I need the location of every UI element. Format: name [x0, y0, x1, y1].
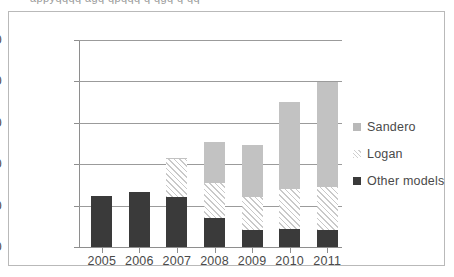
bar-segment[interactable] — [317, 230, 338, 247]
y-tick-label: 100 000 — [0, 157, 2, 171]
x-tick-label: 2009 — [238, 254, 267, 268]
bar-segment[interactable] — [279, 102, 300, 189]
x-tick-label: 2010 — [275, 254, 304, 268]
bar-segment[interactable] — [242, 230, 263, 247]
legend-item-logan: Logan — [353, 147, 454, 161]
legend-label-logan: Logan — [367, 147, 403, 161]
x-tick-label: 2005 — [87, 254, 116, 268]
cropped-header-text-line: appyqqqq agq qpqqq q qgq q qq — [30, 0, 200, 4]
y-tick-label: 200 000 — [0, 74, 2, 88]
cropped-header-text: appyqqqq agq qpqqq q qgq q qq — [0, 0, 454, 9]
y-tick-mark — [74, 247, 79, 248]
x-tick-mark — [177, 248, 178, 253]
x-tick-label: 2011 — [313, 254, 341, 268]
y-tick-label: 150 000 — [0, 116, 2, 130]
bar-segment[interactable] — [317, 187, 338, 231]
bar-stack[interactable] — [129, 40, 150, 247]
bar-segment[interactable] — [166, 197, 187, 247]
bar-segment[interactable] — [204, 218, 225, 247]
y-tick-label: 0 — [0, 240, 2, 254]
bar-stack[interactable] — [317, 40, 338, 247]
x-tick-mark — [139, 248, 140, 253]
bar-segment[interactable] — [317, 82, 338, 186]
y-tick-label: 50 000 — [0, 199, 2, 213]
legend-swatch-other-models-icon — [353, 177, 361, 185]
bar-segment[interactable] — [204, 183, 225, 218]
y-tick-mark — [74, 40, 79, 41]
bar-segment[interactable] — [242, 145, 263, 197]
figure-frame: 050 000100 000150 000200 000250 000 2005… — [8, 11, 445, 266]
x-axis — [79, 247, 342, 248]
legend-swatch-sandero-icon — [353, 123, 361, 131]
legend-label-other-models: Other models — [367, 174, 444, 188]
bar-stack[interactable] — [91, 40, 112, 247]
bar-segment[interactable] — [279, 229, 300, 247]
x-tick-mark — [290, 248, 291, 253]
y-tick-mark — [74, 206, 79, 207]
legend-item-sandero: Sandero — [353, 120, 454, 134]
legend-swatch-logan-icon — [353, 150, 361, 158]
y-tick-mark — [74, 81, 79, 82]
plot-area: 050 000100 000150 000200 000250 000 2005… — [79, 40, 342, 247]
bar-stack[interactable] — [204, 40, 225, 247]
bar-stack[interactable] — [242, 40, 263, 247]
bar-segment[interactable] — [129, 192, 150, 247]
x-tick-mark — [327, 248, 328, 253]
bar-segment[interactable] — [166, 158, 187, 160]
x-tick-mark — [102, 248, 103, 253]
bar-segment[interactable] — [242, 197, 263, 229]
y-tick-mark — [74, 123, 79, 124]
y-axis — [79, 40, 80, 248]
bar-segment[interactable] — [279, 189, 300, 229]
y-tick-label: 250 000 — [0, 33, 2, 47]
x-tick-label: 2007 — [163, 254, 192, 268]
bar-segment[interactable] — [204, 142, 225, 183]
y-tick-mark — [74, 164, 79, 165]
bar-stack[interactable] — [166, 40, 187, 247]
x-tick-label: 2006 — [125, 254, 154, 268]
x-tick-mark — [252, 248, 253, 253]
bar-segment[interactable] — [91, 196, 112, 247]
bar-segment[interactable] — [166, 159, 187, 197]
x-tick-label: 2008 — [200, 254, 229, 268]
chart-legend: Sandero Logan Other models — [353, 120, 454, 201]
legend-item-other-models: Other models — [353, 174, 454, 188]
bar-stack[interactable] — [279, 40, 300, 247]
legend-label-sandero: Sandero — [367, 120, 416, 134]
x-tick-mark — [215, 248, 216, 253]
